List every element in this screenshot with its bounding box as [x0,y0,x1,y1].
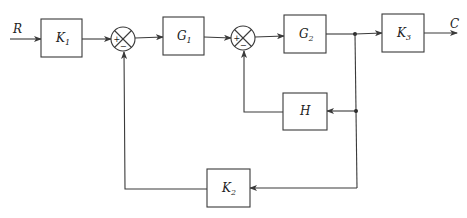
arrow-s1-g1 [135,37,163,38]
feedback-k2-s1 [124,52,207,189]
block-g2: G2 [284,15,326,53]
summing-junction-2: + − [231,26,255,50]
block-g1: G1 [163,17,204,55]
summing-junction-1: + − [111,27,135,51]
arrow-s2-g2 [255,36,284,37]
output-c: C [424,17,459,33]
svg-text:H: H [299,104,311,118]
input-r: R [10,22,41,39]
block-k3: K3 [382,14,424,52]
block-k2: K2 [207,169,250,207]
block-h: H [283,93,327,130]
svg-text:−: − [120,42,127,51]
svg-text:R: R [12,22,22,36]
arrow-g1-s2 [204,37,231,38]
svg-text:C: C [450,17,459,31]
block-diagram: R K1 + − G1 + − G2 K3 [0,0,467,218]
svg-text:−: − [240,41,247,50]
feedback-h-s2 [244,51,283,112]
block-k1: K1 [41,19,82,57]
arrow-branch-k3 [355,33,382,34]
